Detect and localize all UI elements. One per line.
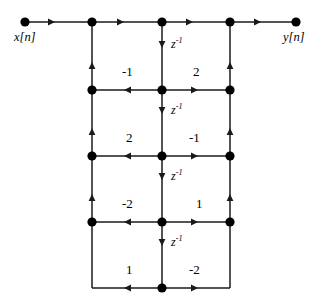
delay-label-1: z-1 <box>171 38 182 50</box>
node-r5-center <box>157 283 166 292</box>
arrowhead-row2-right <box>191 87 198 94</box>
delay-exponent-2: -1 <box>176 102 183 111</box>
graph-nodes <box>20 17 300 292</box>
node-top-left <box>87 17 96 26</box>
node-r4-center <box>157 217 166 226</box>
node-input <box>20 17 29 26</box>
node-r2-right <box>225 85 234 94</box>
arrowhead-row4-right <box>191 219 198 226</box>
arrowhead-right-up-3 <box>227 194 234 201</box>
arrowhead-row5-right <box>191 285 198 292</box>
arrowhead-delay-2 <box>159 107 166 114</box>
arrowhead-row4-left <box>124 219 131 226</box>
delay-exponent-4: -1 <box>176 234 183 243</box>
arrowhead-row3-right <box>191 153 198 160</box>
arrowhead-top-1 <box>48 19 55 26</box>
node-r2-left <box>87 85 96 94</box>
node-top-right <box>225 17 234 26</box>
coefficient-row5-right: -2 <box>189 263 200 276</box>
input-label: x[n] <box>14 31 36 44</box>
coefficient-row4-right: 1 <box>196 197 203 210</box>
arrowhead-top-2 <box>117 19 124 26</box>
node-output <box>291 17 300 26</box>
node-r3-left <box>87 151 96 160</box>
node-r3-center <box>157 151 166 160</box>
arrowhead-right-up-2 <box>227 128 234 135</box>
coefficient-row3-right: -1 <box>189 131 200 144</box>
arrowhead-left-up-2 <box>89 128 96 135</box>
arrowhead-delay-1 <box>159 41 166 48</box>
node-r4-left <box>87 217 96 226</box>
signal-flow-graph-figure: x[n] y[n] z-1 z-1 z-1 z-1 -1 2 2 -1 -2 1… <box>0 0 324 305</box>
output-label: y[n] <box>283 31 305 44</box>
delay-label-2: z-1 <box>171 104 182 116</box>
arrowhead-top-3 <box>186 19 193 26</box>
node-r3-right <box>225 151 234 160</box>
delay-exponent-3: -1 <box>176 168 183 177</box>
flow-graph-canvas <box>0 0 324 305</box>
delay-exponent-1: -1 <box>176 36 183 45</box>
coefficient-row2-right: 2 <box>193 65 200 78</box>
delay-label-3: z-1 <box>171 170 182 182</box>
arrowhead-row2-left <box>124 87 131 94</box>
arrowhead-left-up-1 <box>89 62 96 69</box>
delay-label-4: z-1 <box>171 236 182 248</box>
coefficient-row4-left: -2 <box>122 197 133 210</box>
arrowhead-row3-left <box>124 153 131 160</box>
node-top-center <box>157 17 166 26</box>
arrowhead-delay-4 <box>159 239 166 246</box>
arrowhead-delay-3 <box>159 173 166 180</box>
arrowhead-right-up-1 <box>227 62 234 69</box>
arrowhead-row5-left <box>124 285 131 292</box>
coefficient-row2-left: -1 <box>122 65 133 78</box>
coefficient-row3-left: 2 <box>126 131 133 144</box>
node-r2-center <box>157 85 166 94</box>
coefficient-row5-left: 1 <box>126 263 133 276</box>
node-r4-right <box>225 217 234 226</box>
arrowhead-left-up-3 <box>89 194 96 201</box>
arrowhead-top-4 <box>254 19 261 26</box>
